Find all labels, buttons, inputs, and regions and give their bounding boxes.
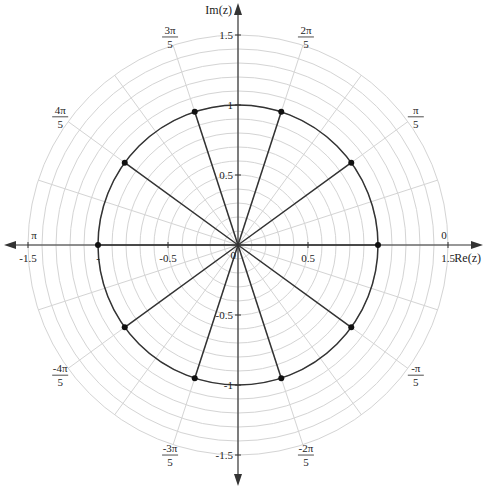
x-axis-arrow-left-icon <box>4 241 16 249</box>
y-axis-arrow-down-icon <box>234 474 242 486</box>
grid-spoke <box>115 245 238 415</box>
angle-label--2pi-over-5: -2π5 <box>298 442 314 468</box>
grid-spoke <box>38 245 238 310</box>
root-point <box>192 109 198 115</box>
angle-label--pi-over-5: -π5 <box>408 362 424 388</box>
complex-plane-plot: -1.5--0.50.51.51.510.5-0.5-1-1.50Re(z)Im… <box>0 0 487 489</box>
root-spoke <box>238 245 351 327</box>
angle-label-4pi-over-5: 4π5 <box>52 104 68 130</box>
x-tick-label: 1.5 <box>441 252 455 264</box>
root-point <box>278 375 284 381</box>
angle-numerator: π <box>413 104 419 116</box>
angle-label: π <box>31 229 37 241</box>
y-tick-label: -1.5 <box>216 449 234 461</box>
root-point <box>348 324 354 330</box>
root-point <box>122 160 128 166</box>
angle-label--4pi-over-5: -4π5 <box>52 362 68 388</box>
angle-label: 0 <box>441 229 447 241</box>
angle-numerator: -3π <box>163 442 178 454</box>
grid-spoke <box>115 75 238 245</box>
grid-spoke <box>238 245 361 415</box>
grid-spoke <box>38 180 238 245</box>
angle-denominator: 5 <box>413 376 419 388</box>
root-point <box>122 324 128 330</box>
y-tick-label: -1 <box>224 379 233 391</box>
root-point <box>375 242 381 248</box>
grid-spoke <box>238 180 438 245</box>
angle-numerator: -2π <box>299 442 314 454</box>
x-tick-label: -1.5 <box>19 252 37 264</box>
angle-numerator: 2π <box>300 24 312 36</box>
angle-denominator: 5 <box>57 376 63 388</box>
y-tick-label: 1.5 <box>219 29 233 41</box>
angle-label--3pi-over-5: -3π5 <box>162 442 178 468</box>
angle-label-pi-over-5: π5 <box>408 104 424 130</box>
x-tick-label: 0.5 <box>301 252 315 264</box>
angle-numerator: 4π <box>55 104 67 116</box>
angle-label-3pi-over-5: 3π5 <box>162 24 178 50</box>
root-point <box>278 109 284 115</box>
x-tick-label: - <box>96 252 100 264</box>
y-tick-label: 1 <box>228 99 234 111</box>
angle-denominator: 5 <box>167 456 173 468</box>
angle-label-2pi-over-5: 2π5 <box>298 24 314 50</box>
y-axis-label: Im(z) <box>205 3 232 17</box>
angle-numerator: -4π <box>53 362 68 374</box>
angle-denominator: 5 <box>57 118 63 130</box>
origin-label: 0 <box>231 249 237 261</box>
grid-spoke <box>238 245 438 310</box>
y-tick-label: -0.5 <box>216 309 234 321</box>
polar-diagram: -1.5--0.50.51.51.510.5-0.5-1-1.50Re(z)Im… <box>0 0 487 489</box>
x-axis-label: Re(z) <box>454 251 481 265</box>
x-tick-label: -0.5 <box>159 252 177 264</box>
angle-denominator: 5 <box>303 456 309 468</box>
root-point <box>348 160 354 166</box>
x-axis-arrow-right-icon <box>471 241 483 249</box>
root-point <box>95 242 101 248</box>
grid-spoke <box>238 75 361 245</box>
root-point <box>192 375 198 381</box>
y-tick-label: 0.5 <box>219 169 233 181</box>
y-axis-arrow-up-icon <box>234 3 242 15</box>
angle-denominator: 5 <box>413 118 419 130</box>
angle-numerator: 3π <box>165 24 177 36</box>
root-spoke <box>238 163 351 245</box>
angle-denominator: 5 <box>303 38 309 50</box>
angle-denominator: 5 <box>167 38 173 50</box>
angle-numerator: -π <box>411 362 421 374</box>
